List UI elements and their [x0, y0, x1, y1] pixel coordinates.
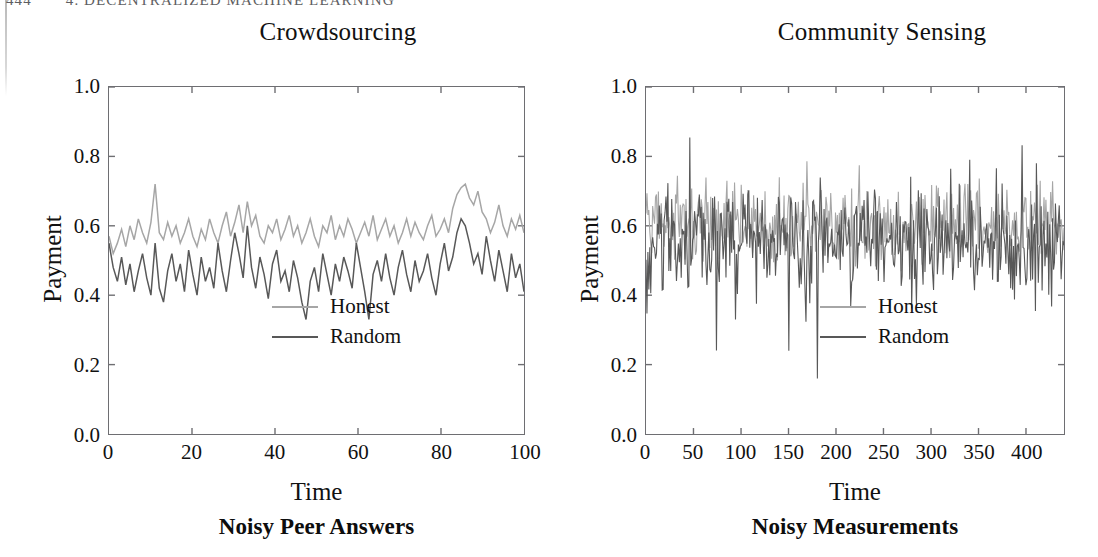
legend-swatch-random	[272, 336, 318, 338]
panel-caption: Noisy Peer Answers	[108, 514, 525, 540]
y-tick-label: 0.4	[611, 285, 637, 306]
x-tick-label: 60	[348, 442, 369, 463]
x-tick-label: 100	[725, 442, 757, 463]
y-tick-labels: 0.0 0.2 0.4 0.6 0.8 1.0	[567, 86, 637, 435]
x-tick-label: 80	[431, 442, 452, 463]
legend-item-honest: Honest	[820, 296, 949, 317]
x-tick-labels: 0 20 40 60 80 100	[108, 442, 525, 470]
y-tick-label: 0.6	[611, 215, 637, 236]
x-tick-label: 0	[640, 442, 651, 463]
x-tick-label: 350	[963, 442, 995, 463]
chart-legend: Honest Random	[272, 296, 401, 347]
chart-panel-crowdsourcing: Crowdsourcing Payment 0.0 0.2 0.4 0.6 0.…	[0, 0, 556, 557]
chart-legend: Honest Random	[820, 296, 949, 347]
plot-area	[645, 86, 1065, 435]
legend-label-random: Random	[878, 326, 949, 347]
chart-title: Community Sensing	[542, 18, 1098, 46]
y-tick-label: 0.4	[74, 285, 100, 306]
x-tick-label: 300	[916, 442, 948, 463]
x-tick-label: 50	[682, 442, 703, 463]
x-tick-label: 200	[820, 442, 852, 463]
y-tick-label: 0.6	[74, 215, 100, 236]
y-tick-label: 1.0	[611, 76, 637, 97]
y-tick-label: 0.2	[74, 355, 100, 376]
x-tick-label: 100	[509, 442, 541, 463]
chart-title: Crowdsourcing	[0, 18, 616, 46]
x-tick-label: 40	[264, 442, 285, 463]
figure: Crowdsourcing Payment 0.0 0.2 0.4 0.6 0.…	[0, 0, 1098, 557]
x-tick-label: 250	[868, 442, 900, 463]
y-tick-labels: 0.0 0.2 0.4 0.6 0.8 1.0	[30, 86, 100, 435]
legend-swatch-random	[820, 336, 866, 338]
panel-caption: Noisy Measurements	[645, 514, 1065, 540]
x-tick-label: 150	[772, 442, 804, 463]
y-tick-label: 1.0	[74, 76, 100, 97]
x-tick-label: 0	[103, 442, 114, 463]
axis-ticks	[109, 87, 524, 434]
legend-item-honest: Honest	[272, 296, 401, 317]
x-tick-labels: 0 50 100 150 200 250 300 350 400	[645, 442, 1065, 470]
y-tick-label: 0.8	[74, 145, 100, 166]
plot-lines	[646, 87, 1064, 434]
legend-label-honest: Honest	[330, 296, 390, 317]
chart-panel-community-sensing: Community Sensing Payment 0.0 0.2 0.4 0.…	[542, 0, 1098, 557]
x-axis-label: Time	[108, 478, 525, 506]
x-tick-label: 20	[181, 442, 202, 463]
legend-label-random: Random	[330, 326, 401, 347]
y-tick-label: 0.8	[611, 145, 637, 166]
y-tick-label: 0.2	[611, 355, 637, 376]
legend-item-random: Random	[820, 326, 949, 347]
plot-lines	[109, 87, 524, 434]
legend-item-random: Random	[272, 326, 401, 347]
y-tick-label: 0.0	[611, 425, 637, 446]
legend-swatch-honest	[272, 306, 318, 308]
legend-label-honest: Honest	[878, 296, 938, 317]
plot-area	[108, 86, 525, 435]
y-tick-label: 0.0	[74, 425, 100, 446]
x-tick-label: 400	[1011, 442, 1043, 463]
x-axis-label: Time	[645, 478, 1065, 506]
legend-swatch-honest	[820, 306, 866, 308]
